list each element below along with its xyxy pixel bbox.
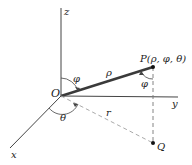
y-axis — [61, 96, 178, 97]
theta-label: θ — [60, 112, 66, 123]
phi-label-at-p: φ — [141, 78, 148, 89]
rho-label: ρ — [105, 67, 112, 78]
point-q-label: Q — [157, 141, 165, 152]
r-label: r — [106, 107, 112, 118]
phi-label-top: φ — [73, 73, 80, 84]
z-axis-label: z — [63, 6, 70, 17]
point-p — [151, 65, 155, 69]
r-dashed-line — [61, 96, 153, 143]
spherical-coordinates-diagram: z y x O P(ρ, φ, θ) Q ρ r φ φ θ — [0, 0, 192, 165]
y-axis-label: y — [171, 98, 178, 109]
point-q — [151, 141, 155, 145]
x-axis — [10, 96, 61, 148]
x-axis-label: x — [11, 149, 17, 160]
origin-label: O — [51, 87, 60, 100]
point-p-label: P(ρ, φ, θ) — [139, 53, 186, 64]
